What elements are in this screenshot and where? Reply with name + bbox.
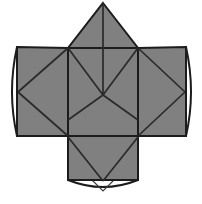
- figure-root: Unfolded polyhedron net diagram Cross-sh…: [0, 0, 202, 204]
- right-wing-panel: [138, 47, 186, 136]
- polyhedron-net-diagram: [0, 0, 202, 204]
- bottom-panel: [68, 136, 138, 180]
- left-wing-panel: [17, 47, 68, 136]
